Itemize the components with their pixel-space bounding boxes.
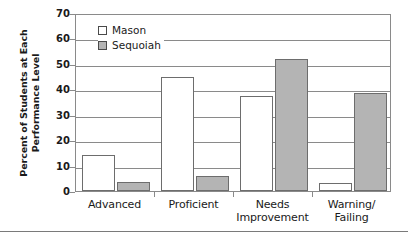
bar-sequoiah-0	[117, 182, 150, 191]
x-axis-label-2-line-1: Improvement	[233, 211, 312, 224]
gridline-40	[76, 91, 390, 92]
y-axis-title-line-1: Percent of Students at Each	[18, 29, 30, 176]
gridline-50	[76, 66, 390, 67]
x-tick-3	[312, 192, 313, 197]
legend-swatch-sequoiah-icon	[98, 41, 107, 50]
x-axis-label-0-line-0: Advanced	[75, 198, 154, 211]
y-tick-label-40: 40	[40, 85, 70, 95]
x-axis-label-2: NeedsImprovement	[233, 198, 312, 224]
chart-legend: Mason Sequoiah	[98, 23, 164, 53]
gridline-10	[76, 168, 390, 169]
y-tick-label-30: 30	[40, 111, 70, 121]
bar-mason-0	[82, 155, 115, 191]
legend-item-mason: Mason	[98, 23, 164, 38]
x-axis-label-0: Advanced	[75, 198, 154, 211]
gridline-20	[76, 142, 390, 143]
x-axis-label-2-line-0: Needs	[233, 198, 312, 211]
bar-mason-2	[240, 96, 273, 191]
x-axis-label-3-line-1: Failing	[312, 211, 391, 224]
bar-mason-3	[319, 183, 352, 191]
bar-sequoiah-2	[275, 59, 308, 191]
bar-mason-1	[161, 77, 194, 191]
legend-swatch-mason-icon	[98, 26, 107, 35]
y-tick-label-70: 70	[40, 9, 70, 19]
legend-item-sequoiah: Sequoiah	[98, 38, 164, 53]
bar-sequoiah-1	[196, 176, 229, 191]
x-tick-2	[233, 192, 234, 197]
y-tick-label-20: 20	[40, 136, 70, 146]
legend-label-sequoiah: Sequoiah	[112, 40, 161, 51]
chart-figure: Percent of Students at Each Performance …	[0, 0, 408, 240]
y-tick-label-0: 0	[40, 187, 70, 197]
x-tick-1	[154, 192, 155, 197]
legend-label-mason: Mason	[112, 25, 146, 36]
y-tick-label-50: 50	[40, 60, 70, 70]
x-axis-label-3-line-0: Warning/	[312, 198, 391, 211]
gridline-30	[76, 117, 390, 118]
y-tick-mark-0	[69, 192, 75, 193]
x-axis-label-1: Proficient	[154, 198, 233, 211]
x-axis-label-1-line-0: Proficient	[154, 198, 233, 211]
x-axis-label-3: Warning/Failing	[312, 198, 391, 224]
y-tick-label-10: 10	[40, 162, 70, 172]
plot-area: Mason Sequoiah	[75, 14, 391, 192]
y-tick-label-60: 60	[40, 34, 70, 44]
bar-sequoiah-3	[354, 93, 387, 191]
